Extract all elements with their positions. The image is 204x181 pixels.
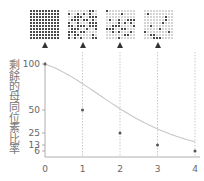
x-tick-label: 0 [42, 164, 48, 174]
x-tick-label: 1 [80, 164, 86, 174]
decay-chart: 100502513601234 [0, 0, 204, 181]
y-tick-label: 50 [29, 105, 41, 115]
y-tick-label: 6 [34, 146, 40, 156]
x-tick-label: 4 [192, 164, 198, 174]
data-point [156, 144, 159, 147]
data-point [81, 109, 84, 112]
x-tick-label: 2 [117, 164, 123, 174]
y-tick-label: 25 [29, 128, 40, 138]
data-point [194, 150, 197, 153]
y-tick-label: 100 [23, 59, 40, 69]
x-tick-label: 3 [155, 164, 161, 174]
data-point [119, 132, 122, 135]
